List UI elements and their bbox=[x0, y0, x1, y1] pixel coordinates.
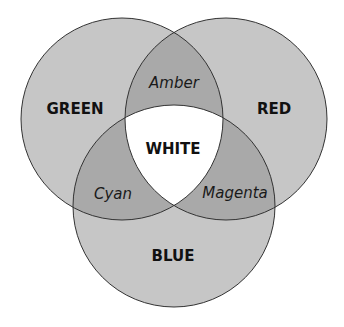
label-green: GREEN bbox=[47, 100, 104, 118]
venn-diagram: GREEN RED BLUE Amber Cyan Magenta WHITE bbox=[0, 0, 344, 327]
label-red: RED bbox=[257, 100, 291, 118]
label-blue: BLUE bbox=[152, 247, 195, 265]
label-cyan: Cyan bbox=[94, 185, 132, 203]
label-magenta: Magenta bbox=[202, 184, 267, 202]
label-white: WHITE bbox=[145, 140, 200, 158]
label-amber: Amber bbox=[148, 74, 200, 92]
